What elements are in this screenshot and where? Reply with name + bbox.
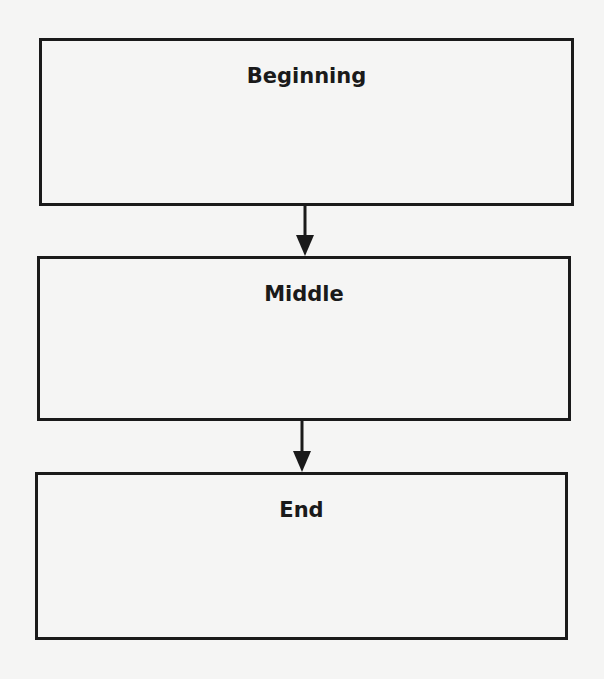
- node-label-end: End: [38, 498, 565, 522]
- flow-node-end: End: [35, 472, 568, 640]
- arrow-beginning-to-middle: [296, 206, 314, 256]
- arrow-down-icon: [293, 451, 311, 472]
- flow-node-beginning: Beginning: [39, 38, 574, 206]
- arrow-middle-to-end: [293, 421, 311, 472]
- node-label-beginning: Beginning: [42, 64, 571, 88]
- node-label-middle: Middle: [40, 282, 568, 306]
- flow-node-middle: Middle: [37, 256, 571, 421]
- arrow-down-icon: [296, 235, 314, 256]
- flowchart-canvas: Beginning Middle End: [0, 0, 604, 679]
